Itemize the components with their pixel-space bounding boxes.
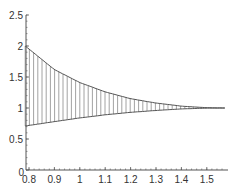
x-tick-label: 1: [77, 174, 83, 185]
y-tick-label: 0: [18, 167, 24, 178]
y-tick-label: 2.5: [9, 10, 23, 21]
x-tick-label: 1.5: [200, 174, 214, 185]
upper-curve: [25, 46, 225, 108]
x-tick-label: 1.2: [124, 174, 138, 185]
x-tick-label: 1.1: [98, 174, 112, 185]
y-tick-label: 1: [17, 103, 23, 114]
x-tick-label: 0.9: [47, 174, 61, 185]
x-tick-label: 1.3: [149, 174, 163, 185]
axes: [26, 15, 228, 170]
x-tick-label: 0.8: [22, 174, 36, 185]
lower-curve: [25, 108, 225, 126]
x-tick-label: 1.4: [174, 174, 188, 185]
tick-labels: 0.80.911.11.21.31.41.500.511.522.5: [9, 10, 214, 186]
y-tick-label: 1.5: [9, 72, 23, 83]
region-between-curves-chart: 0.80.911.11.21.31.41.500.511.522.5: [0, 0, 239, 189]
y-tick-label: 2: [17, 41, 23, 52]
y-tick-label: 0.5: [9, 134, 23, 145]
hatch-fill: [25, 46, 222, 126]
